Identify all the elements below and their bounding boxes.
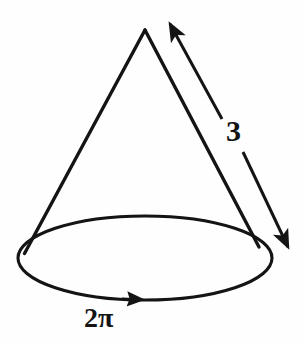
base-circumference-label: 2π (84, 304, 113, 332)
cone-figure-svg (0, 0, 306, 343)
cone-diagram: 3 2π (0, 0, 306, 343)
slant-height-label: 3 (226, 116, 241, 146)
base-ellipse (18, 216, 272, 300)
circumference-arrow-stub (122, 299, 138, 300)
cone-right-side (145, 30, 259, 247)
cone-outline-group (25, 30, 260, 254)
slant-arrow-upper-segment (170, 24, 222, 119)
circumference-direction-arrow-group (122, 299, 138, 300)
base-ellipse-group (18, 216, 272, 300)
